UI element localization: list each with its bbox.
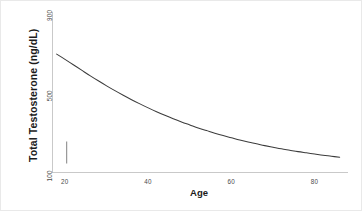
testosterone-curve bbox=[57, 54, 340, 157]
x-tick-label-80: 80 bbox=[311, 178, 318, 185]
y-tick-label-500: 500 bbox=[46, 90, 53, 101]
x-tick-label-40: 40 bbox=[144, 178, 151, 185]
plot-area bbox=[0, 0, 362, 211]
x-tick-label-60: 60 bbox=[228, 178, 235, 185]
y-tick-label-100: 100 bbox=[46, 170, 53, 181]
testosterone-age-chart: Total Testosterone (ng/dL) Age 900 500 1… bbox=[0, 0, 362, 211]
y-axis-title: Total Testosterone (ng/dL) bbox=[27, 29, 39, 162]
x-tick-label-20: 20 bbox=[61, 178, 68, 185]
x-axis-title: Age bbox=[190, 187, 208, 198]
y-tick-label-900: 900 bbox=[46, 10, 53, 21]
